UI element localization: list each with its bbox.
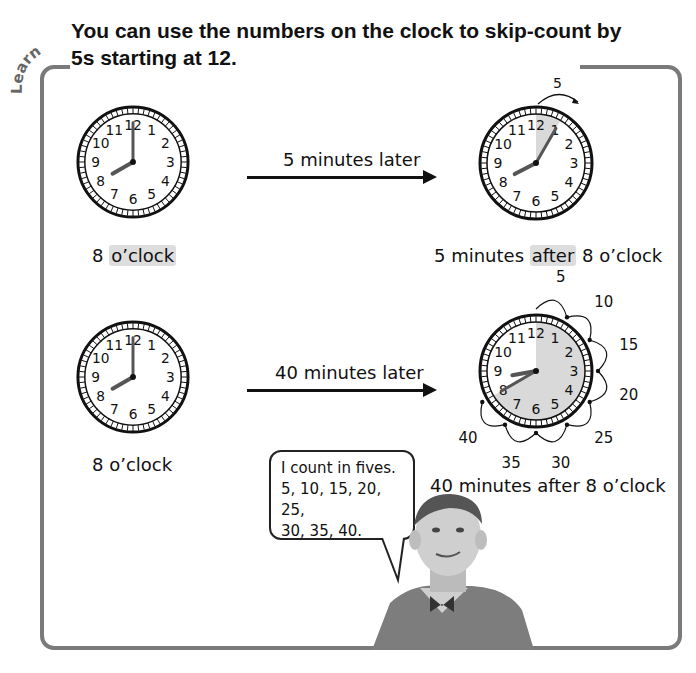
- svg-text:8: 8: [499, 174, 508, 190]
- svg-text:10: 10: [494, 136, 512, 152]
- svg-text:3: 3: [570, 155, 579, 171]
- svg-text:11: 11: [508, 122, 526, 138]
- svg-text:11: 11: [106, 122, 124, 138]
- skip-label-40: 40: [458, 429, 478, 447]
- svg-text:1: 1: [147, 122, 156, 138]
- svg-text:2: 2: [161, 135, 170, 151]
- arrow-right-icon-2: [247, 389, 433, 392]
- clock-8-00-top: 121234567891011: [74, 103, 192, 221]
- svg-text:3: 3: [166, 154, 175, 170]
- skip-label-25: 25: [594, 429, 614, 447]
- svg-text:2: 2: [564, 136, 573, 152]
- skip-label-20: 20: [619, 386, 639, 404]
- skip-label-5: 5: [551, 268, 571, 286]
- svg-text:5: 5: [147, 401, 156, 417]
- svg-text:2: 2: [161, 350, 170, 366]
- caption-8-oclock-bottom: 8 o’clock: [92, 454, 172, 475]
- svg-text:9: 9: [91, 369, 100, 385]
- arrow-right-icon: [247, 176, 433, 179]
- page-title: You can use the numbers on the clock to …: [71, 17, 631, 71]
- arrow-label-40-min: 40 minutes later: [275, 362, 424, 383]
- svg-text:8: 8: [96, 173, 105, 189]
- caption-8-oclock-top: 8 o’clock: [92, 245, 176, 266]
- svg-text:10: 10: [92, 135, 110, 151]
- svg-text:6: 6: [129, 191, 138, 207]
- svg-text:7: 7: [513, 188, 522, 204]
- svg-text:1: 1: [147, 337, 156, 353]
- svg-text:11: 11: [106, 337, 124, 353]
- svg-text:12: 12: [527, 117, 545, 133]
- clock-8-00-bottom: 121234567891011: [74, 318, 192, 436]
- svg-text:4: 4: [161, 388, 170, 404]
- arrow-label-5-min: 5 minutes later: [283, 149, 420, 170]
- svg-text:8: 8: [96, 388, 105, 404]
- svg-text:5: 5: [147, 186, 156, 202]
- svg-text:9: 9: [494, 155, 503, 171]
- skip-arc-icon: [530, 88, 590, 108]
- svg-text:6: 6: [129, 406, 138, 422]
- svg-text:7: 7: [110, 401, 119, 417]
- skip-label-35: 35: [501, 454, 521, 472]
- clock-8-05: 121234567891011: [475, 102, 597, 224]
- svg-text:5: 5: [551, 188, 560, 204]
- svg-text:7: 7: [110, 186, 119, 202]
- bubble-line-1: I count in fives.: [281, 458, 403, 479]
- boy-illustration: [372, 488, 542, 650]
- skip-label-15: 15: [619, 336, 639, 354]
- svg-text:4: 4: [564, 174, 573, 190]
- svg-text:10: 10: [92, 350, 110, 366]
- svg-text:4: 4: [161, 173, 170, 189]
- svg-text:6: 6: [532, 193, 541, 209]
- skip-label-10: 10: [594, 293, 614, 311]
- skip-label-30: 30: [551, 454, 571, 472]
- svg-text:3: 3: [166, 369, 175, 385]
- caption-5-after-8: 5 minutes after 8 o’clock: [434, 245, 662, 266]
- svg-text:9: 9: [91, 154, 100, 170]
